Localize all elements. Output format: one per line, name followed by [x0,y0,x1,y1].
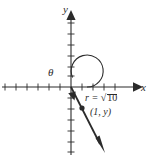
figure-canvas [0,0,153,157]
radical-group: √10 [101,93,118,103]
angle-theta-label: θ [48,67,53,78]
x-axis-label: x [141,82,146,93]
angle-arc [71,55,103,87]
point-coordinates-label: (1, y) [90,107,111,117]
y-axis-label: y [63,4,68,15]
terminal-ray-arrowhead [96,136,106,154]
radical-overbar [107,94,118,95]
radius-label: r = √10 [85,93,117,103]
point-marker [79,105,84,110]
coordinate-plane-figure: x y θ r = √10 (1, y) [0,0,153,157]
radius-label-prefix: r = [85,92,101,103]
